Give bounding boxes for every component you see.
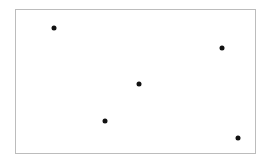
point-5 bbox=[236, 136, 241, 141]
point-3 bbox=[137, 82, 142, 87]
point-4 bbox=[103, 119, 108, 124]
point-2 bbox=[220, 46, 225, 51]
diagram-frame bbox=[15, 9, 256, 154]
point-1 bbox=[52, 26, 57, 31]
